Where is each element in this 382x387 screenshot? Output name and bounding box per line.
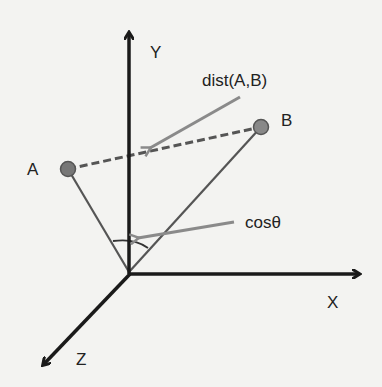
- point-a-label: A: [27, 160, 39, 179]
- distance-label: dist(A,B): [202, 71, 267, 90]
- point-a: [61, 162, 76, 177]
- point-b: [254, 120, 269, 135]
- point-b-label: B: [281, 111, 292, 130]
- z-axis: [44, 274, 130, 364]
- distance-line: [68, 127, 261, 169]
- distance-pointer-arrow: [150, 97, 240, 148]
- z-axis-label: Z: [76, 350, 86, 369]
- vector-to-a: [68, 169, 129, 272]
- x-axis-label: X: [327, 293, 338, 312]
- y-axis-label: Y: [150, 43, 161, 62]
- angle-label: cosθ: [245, 213, 281, 232]
- vector-to-b: [129, 127, 261, 272]
- angle-pointer-arrow: [138, 222, 234, 238]
- vector-space-diagram: Y X Z A B dist(A,B) cosθ: [0, 0, 382, 387]
